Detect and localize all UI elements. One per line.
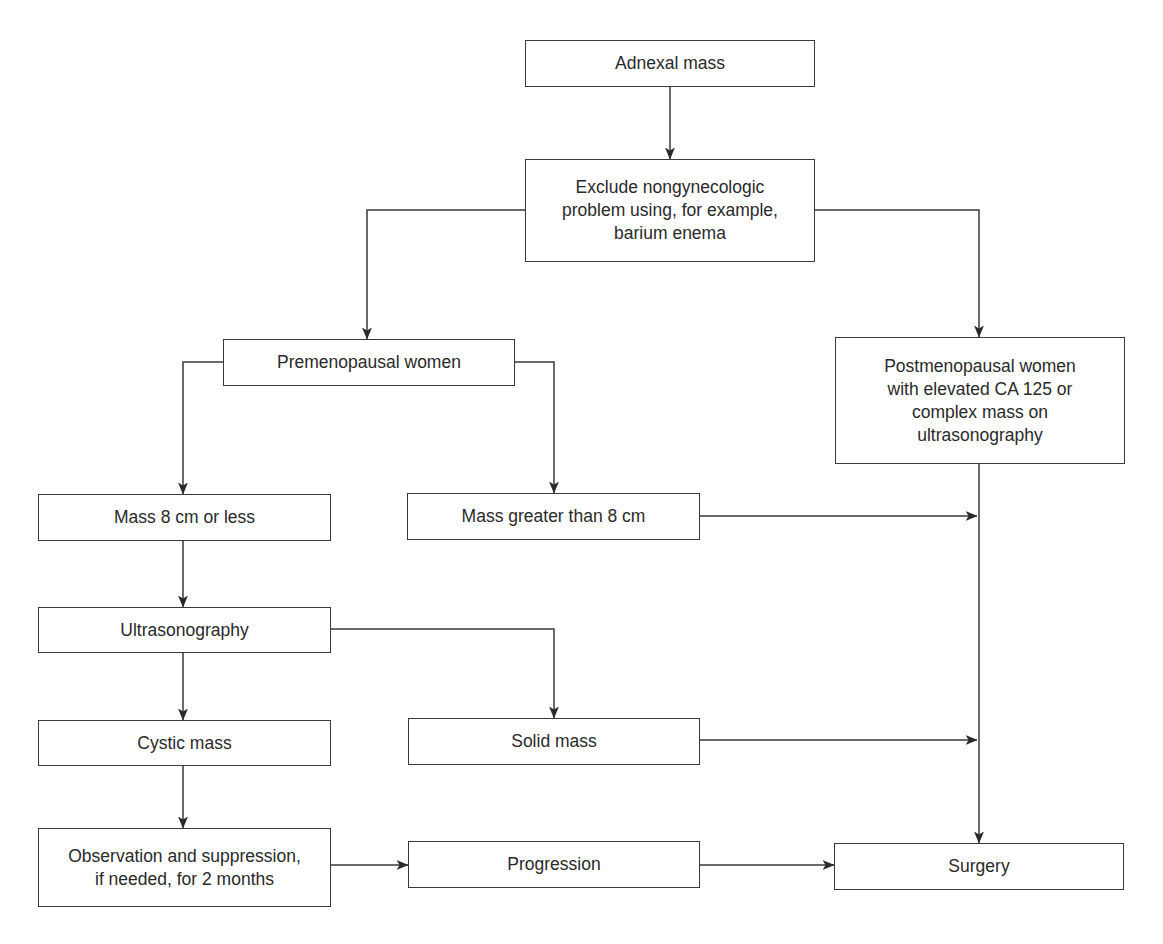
node-label: Postmenopausal women with elevated CA 12… bbox=[884, 355, 1076, 447]
node-label: Observation and suppression, if needed, … bbox=[68, 845, 301, 891]
node-surgery: Surgery bbox=[834, 843, 1124, 890]
node-label: Mass 8 cm or less bbox=[114, 506, 255, 529]
node-label: Premenopausal women bbox=[277, 351, 461, 374]
arrow-premeno-to-mass_large bbox=[515, 362, 554, 493]
connector-layer bbox=[0, 0, 1163, 944]
node-label: Exclude nongynecologic problem using, fo… bbox=[562, 176, 778, 245]
node-label: Adnexal mass bbox=[615, 52, 725, 75]
node-premenopausal-women: Premenopausal women bbox=[223, 339, 515, 386]
node-mass-8cm-or-less: Mass 8 cm or less bbox=[38, 494, 331, 541]
arrow-exclude-to-postmeno bbox=[815, 210, 979, 337]
node-solid-mass: Solid mass bbox=[408, 718, 700, 765]
node-label: Cystic mass bbox=[137, 732, 231, 755]
flowchart-canvas: Adnexal mass Exclude nongynecologic prob… bbox=[0, 0, 1163, 944]
node-label: Surgery bbox=[948, 855, 1009, 878]
arrow-premeno-to-mass_small bbox=[183, 362, 223, 494]
node-postmenopausal-women: Postmenopausal women with elevated CA 12… bbox=[835, 337, 1125, 464]
arrow-exclude-to-premeno bbox=[367, 210, 525, 339]
node-label: Mass greater than 8 cm bbox=[462, 505, 646, 528]
node-adnexal-mass: Adnexal mass bbox=[525, 40, 815, 87]
node-progression: Progression bbox=[408, 841, 700, 888]
node-cystic-mass: Cystic mass bbox=[38, 720, 331, 766]
node-mass-greater-8cm: Mass greater than 8 cm bbox=[407, 493, 700, 540]
node-label: Solid mass bbox=[511, 730, 597, 753]
node-label: Ultrasonography bbox=[120, 619, 248, 642]
node-label: Progression bbox=[507, 853, 600, 876]
arrow-ultra-to-solid bbox=[331, 629, 554, 718]
node-observation-suppression: Observation and suppression, if needed, … bbox=[38, 828, 331, 907]
node-ultrasonography: Ultrasonography bbox=[38, 607, 331, 653]
node-exclude-nongynecologic: Exclude nongynecologic problem using, fo… bbox=[525, 159, 815, 262]
